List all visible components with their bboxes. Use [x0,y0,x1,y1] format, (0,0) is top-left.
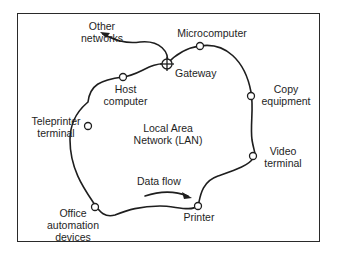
label-printer: Printer [178,211,220,223]
node-host-computer [120,74,127,81]
label-copy-equipment: Copy equipment [256,83,316,107]
label-other-networks-line2: networks [72,32,132,44]
label-lan-center-line1: Local Area [128,122,208,134]
label-office-automation-line1: Office [42,207,104,219]
data-flow-arrowhead [182,192,192,199]
label-microcomputer-line1: Microcomputer [172,27,252,39]
label-teleprinter-terminal-line2: terminal [25,127,87,139]
label-microcomputer: Microcomputer [172,27,252,39]
node-microcomputer [197,43,204,50]
label-gateway: Gateway [175,67,216,79]
label-video-terminal-line2: terminal [258,157,308,169]
label-video-terminal: Video terminal [258,145,308,169]
label-gateway-line1: Gateway [175,67,216,79]
node-video-terminal [250,153,257,160]
label-other-networks: Other networks [72,20,132,44]
label-host-computer-line1: Host [98,83,153,95]
label-teleprinter-terminal: Teleprinter terminal [25,115,87,139]
label-copy-equipment-line2: equipment [256,95,316,107]
label-other-networks-line1: Other [72,20,132,32]
label-data-flow: Data flow [137,175,181,187]
label-host-computer: Host computer [98,83,153,107]
label-host-computer-line2: computer [98,95,153,107]
label-teleprinter-terminal-line1: Teleprinter [25,115,87,127]
label-copy-equipment-line1: Copy [256,83,316,95]
data-flow-arrow-path [145,192,188,196]
node-copy-equipment [248,93,255,100]
label-printer-line1: Printer [178,211,220,223]
label-office-automation-devices: Office automation devices [42,207,104,243]
label-office-automation-line3: devices [42,231,104,243]
label-lan-center: Local Area Network (LAN) [128,122,208,146]
label-data-flow-text: Data flow [137,175,181,187]
node-printer [195,203,202,210]
label-office-automation-line2: automation [42,219,104,231]
label-lan-center-line2: Network (LAN) [128,134,208,146]
label-video-terminal-line1: Video [258,145,308,157]
